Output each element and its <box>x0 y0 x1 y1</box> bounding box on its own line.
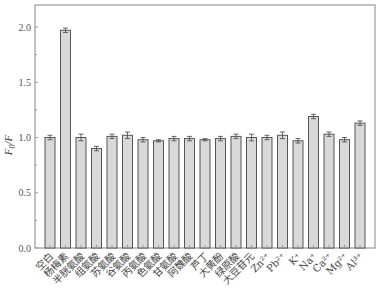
bar <box>216 136 226 248</box>
bar <box>293 139 303 248</box>
bar <box>92 146 102 248</box>
bar <box>262 135 272 248</box>
bar <box>231 134 241 248</box>
bar <box>340 138 350 249</box>
y-tick-label: 2.0 <box>19 22 32 33</box>
bar <box>123 132 133 248</box>
bar <box>107 134 117 248</box>
bar <box>324 132 334 248</box>
y-tick-label: 1.5 <box>19 77 32 88</box>
bar <box>309 114 319 248</box>
bar <box>355 121 365 248</box>
bar <box>138 138 148 249</box>
bar <box>200 139 210 248</box>
x-axis-labels: 空白杨梅素半胱氨酸组氨酸苏氨酸谷氨酸丙氨酸色氨酸甘氨酸阿魏酸芦丁大黄酚绿原酸大豆… <box>33 250 366 287</box>
y-tick-label: 0.0 <box>19 243 32 254</box>
bar <box>185 136 195 248</box>
bar <box>278 132 288 248</box>
bar <box>76 134 86 248</box>
bar <box>154 140 164 248</box>
y-tick-label: 0.5 <box>19 187 32 198</box>
y-axis-title: F0/F <box>2 134 17 156</box>
bar-chart: 0.00.51.01.52.0 空白杨梅素半胱氨酸组氨酸苏氨酸谷氨酸丙氨酸色氨酸… <box>0 0 387 295</box>
bar <box>45 135 55 248</box>
y-tick-label: 1.0 <box>19 132 32 143</box>
bar <box>169 136 179 248</box>
bar-series <box>45 28 365 248</box>
x-category-label: Al³⁺ <box>343 251 365 273</box>
bar <box>61 28 71 248</box>
bar <box>247 134 257 248</box>
